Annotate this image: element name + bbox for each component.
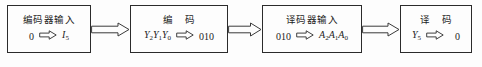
inline-arrow-right-icon — [176, 30, 194, 43]
expression-right-subscript: 5 — [65, 34, 69, 42]
stage-title-encoder-input: 编码器输入 — [23, 14, 76, 25]
stage-box-decoder-input: 译码器输入 010 A2A1A0 — [262, 5, 362, 53]
expression-left-operand: Y2Y1Y0 — [144, 29, 171, 44]
stage-expression-decode: Y5 0 — [412, 29, 460, 44]
expression-left-operand: 010 — [276, 31, 291, 43]
stage-box-encoder-input: 编码器输入 0 I5 — [7, 5, 91, 53]
inline-arrow-right-icon — [296, 30, 314, 43]
stage-title-encode: 编 码 — [159, 14, 198, 25]
inline-arrow-right-icon — [39, 30, 57, 43]
expression-left-operand: Y5 — [412, 29, 421, 44]
stage-box-decode: 译 码 Y5 0 — [400, 5, 472, 53]
expression-left-operand: 0 — [29, 31, 34, 43]
stage-title-decoder-input: 译码器输入 — [286, 14, 339, 25]
stage-expression-encode: Y2Y1Y0 010 — [144, 29, 214, 44]
stage-title-decode: 译 码 — [416, 14, 455, 25]
connector-encode-to-decoder-input — [228, 22, 262, 37]
expression-right-operand: I5 — [62, 29, 69, 44]
connector-decoder-input-to-decode — [362, 22, 400, 37]
connector-encoder-input-to-encode — [91, 22, 130, 37]
encoder-decoder-flow-diagram: 编码器输入 0 I5 编 码 Y2Y1Y0 010 — [0, 0, 482, 67]
stage-expression-decoder-input: 010 A2A1A0 — [276, 29, 348, 44]
expression-left-subscript: 5 — [418, 34, 422, 42]
expression-right-operand: 0 — [455, 31, 460, 43]
caption-sliver — [120, 60, 370, 67]
expression-right-operand: 010 — [199, 31, 214, 43]
inline-arrow-right-icon — [426, 30, 444, 43]
stage-expression-encoder-input: 0 I5 — [29, 29, 69, 44]
stage-box-encode: 编 码 Y2Y1Y0 010 — [130, 5, 228, 53]
expression-right-operand: A2A1A0 — [319, 29, 348, 44]
